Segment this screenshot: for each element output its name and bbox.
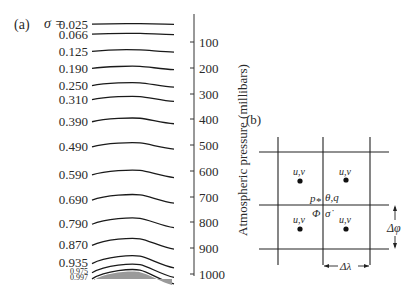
arrowhead-left-icon	[324, 264, 329, 268]
pressure-axis-title: Atmospheric pressure (millibars)	[235, 64, 250, 236]
panel-a-label: (a)	[14, 17, 30, 33]
wind-points: u,v u,v u,v u,v	[293, 166, 352, 232]
pressure-tick-label: 200	[199, 61, 219, 76]
theta-q-label: θ,q	[325, 191, 339, 203]
delta-phi-label: Δφ	[386, 221, 401, 235]
sigma-level-curve	[92, 256, 174, 268]
sigma-level-curve	[92, 33, 174, 34]
wind-label: u,v	[293, 214, 306, 225]
sigma-level-label: 0.066	[59, 27, 89, 42]
sigma-level-curve	[92, 50, 174, 52]
pressure-axis-ticks: 1002003004005006007008009001000	[190, 35, 225, 282]
wind-label: u,v	[339, 214, 352, 225]
sigma-level-curve	[92, 238, 174, 249]
sigma-level-curve	[92, 118, 174, 124]
sigma-level-label: 0.590	[59, 167, 88, 182]
sigma-coordinate-figure: (a) σ = 0.0250.0660.1250.1900.2500.3100.…	[0, 0, 420, 296]
pressure-tick-label: 1000	[199, 267, 225, 282]
delta-lambda-dimension: Δλ	[324, 260, 369, 272]
wind-point-dot	[297, 178, 302, 183]
sigma-dot-label: σ̇	[325, 207, 334, 219]
sigma-level-label: 0.125	[59, 44, 88, 59]
sigma-level-label: 0.490	[59, 139, 88, 154]
surface-pressure-label: p	[309, 192, 316, 204]
pressure-tick-label: 900	[199, 241, 219, 256]
wind-label: u,v	[339, 166, 352, 177]
sigma-level-curve	[92, 218, 174, 228]
sigma-level-curve	[92, 83, 174, 88]
sigma-level-curve	[92, 24, 174, 25]
sigma-level-labels: 0.0250.0660.1250.1900.2500.3100.3900.490…	[59, 17, 89, 282]
sigma-level-curve	[92, 96, 174, 101]
surface-pressure-subscript: *	[316, 195, 322, 207]
pressure-tick-label: 800	[199, 215, 219, 230]
sigma-level-curve	[92, 170, 174, 177]
arrowhead-down-icon	[393, 243, 397, 249]
sigma-level-label: 0.870	[59, 237, 88, 252]
pressure-tick-label: 600	[199, 164, 219, 179]
arrowhead-up-icon	[393, 205, 397, 211]
model-grid	[259, 137, 389, 265]
pressure-tick-label: 100	[199, 35, 219, 50]
pressure-tick-label: 400	[199, 112, 219, 127]
sigma-level-label: 0.690	[59, 192, 88, 207]
sigma-level-label: 0.190	[59, 61, 88, 76]
sigma-level-curves	[92, 24, 174, 284]
sigma-level-label: 0.390	[59, 114, 88, 129]
wind-point-dot	[343, 226, 348, 231]
sigma-level-curve	[92, 66, 174, 69]
sigma-level-label: 0.310	[59, 92, 88, 107]
delta-lambda-label: Δλ	[339, 260, 351, 272]
wind-point-dot	[297, 226, 302, 231]
delta-phi-dimension: Δφ	[386, 205, 401, 249]
pressure-tick-label: 300	[199, 87, 219, 102]
wind-point-dot	[343, 177, 348, 182]
wind-label: u,v	[293, 166, 306, 177]
panel-b-label: (b)	[246, 112, 261, 127]
sigma-level-curve	[92, 143, 174, 149]
pressure-tick-label: 500	[199, 138, 219, 153]
sigma-level-label: 0.250	[59, 78, 88, 93]
arrowhead-right-icon	[364, 264, 369, 268]
sigma-level-label: 0.790	[59, 216, 88, 231]
sigma-level-label: 0.997	[70, 273, 88, 282]
pressure-tick-label: 700	[199, 190, 219, 205]
sigma-level-curve	[92, 195, 174, 204]
geopotential-label: Φ	[312, 207, 321, 219]
